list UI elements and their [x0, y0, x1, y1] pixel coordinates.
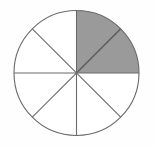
fraction-circle-graphic: Circle divided into eight equal sectors …: [0, 0, 154, 148]
fraction-circle-diagram: Circle divided into eight equal sectors …: [0, 0, 154, 148]
